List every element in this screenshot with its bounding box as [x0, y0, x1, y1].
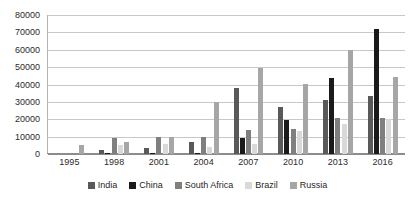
gridline — [48, 154, 405, 155]
bar-russia-2007 — [258, 68, 263, 154]
bar-south-africa-2004 — [201, 137, 206, 154]
x-axis: 19951998200120042007201020132016 — [47, 156, 405, 170]
bar-brazil-2001 — [163, 144, 168, 154]
y-axis-tick-label: 60000 — [0, 45, 40, 54]
bar-group-2007 — [226, 15, 271, 154]
legend-label: India — [98, 181, 118, 190]
bar-china-1998 — [105, 153, 110, 154]
bar-brazil-2010 — [297, 131, 302, 154]
legend-item-china[interactable]: China — [129, 181, 163, 190]
bar-south-africa-2016 — [380, 118, 385, 154]
bar-group-2016 — [360, 15, 405, 154]
bar-russia-2013 — [348, 50, 353, 154]
x-axis-tick-label: 2001 — [137, 156, 182, 170]
bar-south-africa-2007 — [246, 130, 251, 154]
legend-item-south-africa[interactable]: South Africa — [175, 181, 234, 190]
bar-group-1995 — [47, 15, 92, 154]
x-axis-tick-label: 2004 — [181, 156, 226, 170]
bar-south-africa-1998 — [112, 138, 117, 154]
bar-india-2007 — [234, 88, 239, 154]
plot-wrapper: 8000070000600005000040000300002000010000… — [0, 0, 415, 170]
y-axis-tick-label: 0 — [0, 150, 40, 159]
bars-layer — [47, 15, 405, 154]
y-axis-tick-label: 30000 — [0, 97, 40, 106]
bar-china-2007 — [240, 138, 245, 154]
y-axis-tick-label: 20000 — [0, 115, 40, 124]
legend-label: China — [139, 181, 163, 190]
legend-label: South Africa — [185, 181, 234, 190]
y-axis-tick-label: 10000 — [0, 132, 40, 141]
legend-label: Russia — [300, 181, 328, 190]
bar-south-africa-2010 — [291, 129, 296, 154]
chart-legend: IndiaChinaSouth AfricaBrazilRussia — [0, 177, 415, 193]
y-axis-tick-label: 70000 — [0, 28, 40, 37]
bar-russia-2010 — [303, 84, 308, 154]
legend-swatch-icon — [175, 182, 182, 189]
legend-swatch-icon — [245, 182, 252, 189]
legend-item-russia[interactable]: Russia — [290, 181, 328, 190]
bar-india-2001 — [144, 148, 149, 154]
x-axis-tick-label: 2007 — [226, 156, 271, 170]
bar-russia-2016 — [393, 77, 398, 154]
bar-group-1998 — [92, 15, 137, 154]
x-axis-tick-label: 1995 — [47, 156, 92, 170]
bar-china-2001 — [150, 153, 155, 154]
x-axis-tick-label: 2010 — [271, 156, 316, 170]
bar-group-2013 — [316, 15, 361, 154]
x-axis-tick-label: 1998 — [92, 156, 137, 170]
legend-swatch-icon — [129, 182, 136, 189]
bar-india-2010 — [278, 107, 283, 154]
y-axis-tick-label: 80000 — [0, 11, 40, 20]
legend-swatch-icon — [290, 182, 297, 189]
x-axis-tick-label: 2016 — [360, 156, 405, 170]
y-axis: 8000070000600005000040000300002000010000… — [0, 10, 44, 156]
bar-group-2004 — [181, 15, 226, 154]
legend-swatch-icon — [88, 182, 95, 189]
bar-india-1998 — [99, 150, 104, 154]
x-axis-tick-label: 2013 — [316, 156, 361, 170]
bar-brazil-2016 — [386, 119, 391, 154]
bar-brazil-1998 — [118, 145, 123, 154]
legend-item-brazil[interactable]: Brazil — [245, 181, 278, 190]
legend-item-india[interactable]: India — [88, 181, 118, 190]
y-axis-tick-label: 50000 — [0, 63, 40, 72]
bar-china-2010 — [284, 120, 289, 154]
bar-russia-2004 — [214, 102, 219, 154]
bar-group-2010 — [271, 15, 316, 154]
bar-india-2013 — [323, 100, 328, 154]
bar-chart: 8000070000600005000040000300002000010000… — [0, 0, 415, 204]
bar-russia-1998 — [124, 142, 129, 154]
bar-brazil-2007 — [252, 144, 257, 154]
bar-china-2004 — [195, 153, 200, 154]
bar-russia-1995 — [79, 145, 84, 154]
legend-label: Brazil — [255, 181, 278, 190]
bar-russia-2001 — [169, 137, 174, 154]
bar-india-2016 — [368, 96, 373, 154]
y-axis-tick-label: 40000 — [0, 80, 40, 89]
bar-brazil-2004 — [207, 147, 212, 154]
bar-south-africa-2001 — [156, 137, 161, 154]
bar-south-africa-2013 — [335, 118, 340, 154]
bar-india-2004 — [189, 142, 194, 154]
bar-china-2013 — [329, 78, 334, 154]
bar-china-2016 — [374, 29, 379, 154]
bar-group-2001 — [137, 15, 182, 154]
bar-brazil-2013 — [342, 124, 347, 154]
